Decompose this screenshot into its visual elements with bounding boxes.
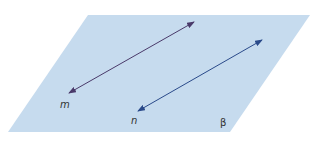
label-n: n	[131, 115, 137, 126]
plane-beta	[8, 15, 310, 132]
label-m: m	[60, 99, 70, 110]
label-plane-beta: β	[220, 117, 226, 128]
diagram-canvas: m n β	[0, 0, 315, 141]
